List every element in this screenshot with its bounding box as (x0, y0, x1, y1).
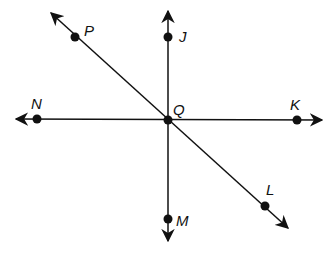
label-p: P (84, 22, 94, 39)
point-m (164, 215, 173, 224)
label-n: N (31, 95, 42, 112)
label-q: Q (173, 101, 185, 118)
point-k (293, 116, 302, 125)
point-q (164, 116, 173, 125)
label-l: L (266, 181, 274, 198)
point-j (164, 33, 173, 42)
label-m: M (176, 212, 189, 229)
label-j: J (178, 28, 187, 45)
geometry-diagram: P J N Q K L M (0, 0, 331, 253)
point-n (33, 115, 42, 124)
label-k: K (290, 96, 301, 113)
point-p (71, 33, 80, 42)
point-l (261, 202, 270, 211)
